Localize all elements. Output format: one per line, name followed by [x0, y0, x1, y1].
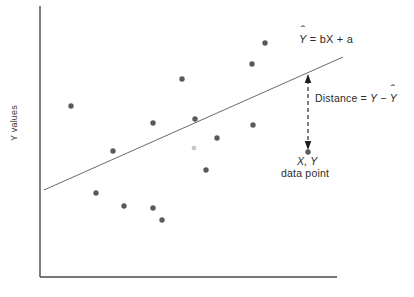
scatter-point: [93, 190, 98, 195]
scatter-point: [214, 135, 219, 140]
regression-scatterplot-figure: Y values Y = bX + a Distance = Y − Y X, …: [0, 0, 414, 297]
residual-arrow-group: [305, 74, 312, 150]
residual-arrowhead-up: [305, 74, 312, 83]
scatter-point: [262, 40, 267, 45]
distance-yhat-symbol: Y: [390, 92, 397, 104]
scatter-point: [305, 149, 310, 154]
equation-yhat-symbol: Y: [299, 33, 307, 45]
scatter-point: [192, 116, 197, 121]
scatter-point: [68, 103, 73, 108]
scatter-point-faint: [192, 146, 197, 151]
equation-rest: = bX + a: [307, 33, 353, 45]
regression-equation-label: Y = bX + a: [299, 33, 353, 45]
scatter-point: [121, 203, 126, 208]
axes-group: [40, 6, 337, 277]
scatter-point: [159, 217, 164, 222]
data-point-coordinates-label: X, Y: [297, 155, 317, 167]
data-point-caption-label: data point: [281, 167, 329, 179]
scatter-point: [150, 120, 155, 125]
scatter-point: [179, 76, 184, 81]
distance-formula-label: Distance = Y − Y: [315, 92, 397, 104]
scatter-point: [203, 167, 208, 172]
scatter-points-group: [68, 40, 310, 222]
distance-prefix: Distance =: [315, 92, 370, 104]
distance-operator: −: [377, 92, 390, 104]
scatter-point: [249, 61, 254, 66]
residual-arrowhead-down: [305, 141, 312, 150]
scatter-point: [110, 148, 115, 153]
scatter-point: [150, 205, 155, 210]
y-axis-label: Y values: [9, 87, 19, 159]
scatter-point: [250, 122, 255, 127]
